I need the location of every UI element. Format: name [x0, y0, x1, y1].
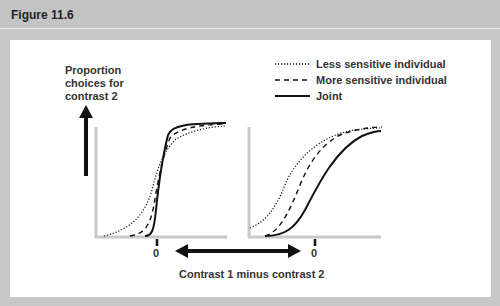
legend-label-more-sensitive: More sensitive individual — [316, 74, 447, 87]
legend-label-less-sensitive: Less sensitive individual — [316, 58, 446, 71]
y-axis-label-line-1: Proportion — [65, 64, 121, 77]
legend-label-joint: Joint — [316, 90, 342, 103]
left-axes — [95, 127, 227, 246]
right-axes — [248, 127, 381, 246]
up-arrow-head-icon — [79, 105, 93, 118]
y-axis-label-line-3: contrast 2 — [65, 90, 118, 103]
x-axis-label: Contrast 1 minus contrast 2 — [179, 268, 324, 281]
left-tick-label: 0 — [153, 247, 159, 260]
y-axis-label-line-2: choices for — [65, 77, 124, 90]
left-curves — [104, 123, 226, 236]
diagram-canvas — [0, 0, 500, 306]
right-tick-label: 0 — [311, 247, 317, 260]
left-arrow-head-icon — [175, 244, 188, 258]
right-arrow-head-icon — [288, 244, 301, 258]
legend-swatches — [275, 64, 310, 96]
right-curves — [250, 127, 382, 236]
